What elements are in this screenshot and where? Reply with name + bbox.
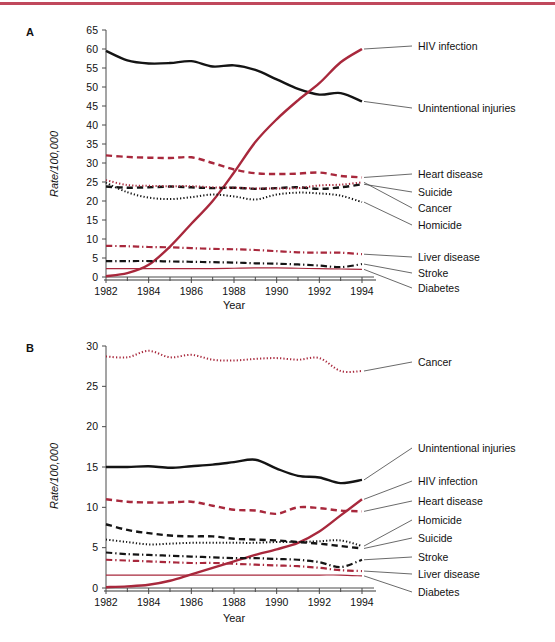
- legend-leader-suicide: [364, 184, 412, 192]
- series-line-unintentional-injuries: [106, 51, 362, 102]
- x-tick-label: 1982: [94, 596, 118, 608]
- x-tick-label: 1984: [137, 596, 161, 608]
- x-tick-label: 1984: [137, 285, 161, 297]
- x-axis-title: Year: [223, 299, 246, 311]
- x-tick-label: 1994: [350, 285, 374, 297]
- legend-leader-liver-disease: [364, 254, 412, 257]
- legend-leader-unintentional-injuries: [364, 448, 412, 480]
- legend-leader-heart-disease: [364, 174, 412, 177]
- legend-label-suicide: Suicide: [418, 532, 453, 544]
- legend-label-heart-disease: Heart disease: [418, 495, 483, 507]
- y-tick-label: 5: [92, 541, 98, 553]
- y-tick-label: 15: [86, 461, 98, 473]
- series-line-hiv-infection: [106, 49, 362, 276]
- x-tick-label: 1986: [180, 285, 204, 297]
- legend-leader-suicide: [364, 538, 412, 548]
- y-tick-label: 65: [86, 24, 98, 36]
- legend-label-diabetes: Diabetes: [418, 282, 459, 294]
- legend-leader-cancer: [364, 362, 412, 371]
- x-axis-title: Year: [223, 612, 246, 624]
- y-axis-title: Rate/100,000: [48, 442, 60, 509]
- x-tick-label: 1982: [94, 285, 118, 297]
- legend-leader-hiv-infection: [364, 46, 412, 49]
- panel-a: A051015202530354045505560651982198419861…: [0, 14, 555, 320]
- legend-label-cancer: Cancer: [418, 356, 452, 368]
- y-tick-label: 5: [92, 252, 98, 264]
- top-rule: [0, 2, 555, 5]
- legend-leader-stroke: [364, 264, 412, 273]
- panel-a-plot: A051015202530354045505560651982198419861…: [0, 14, 555, 320]
- y-tick-label: 45: [86, 100, 98, 112]
- x-tick-label: 1988: [222, 285, 246, 297]
- x-tick-label: 1992: [308, 596, 332, 608]
- y-tick-label: 20: [86, 195, 98, 207]
- legend-label-unintentional-injuries: Unintentional injuries: [418, 442, 515, 454]
- y-tick-label: 50: [86, 81, 98, 93]
- y-tick-label: 15: [86, 214, 98, 226]
- legend-label-homicide: Homicide: [418, 219, 462, 231]
- y-tick-label: 40: [86, 119, 98, 131]
- series-line-diabetes: [106, 575, 362, 576]
- y-tick-label: 20: [86, 420, 98, 432]
- y-tick-label: 60: [86, 43, 98, 55]
- legend-leader-unintentional-injuries: [364, 101, 412, 108]
- series-line-suicide: [106, 184, 362, 189]
- legend-label-suicide: Suicide: [418, 186, 453, 198]
- legend-label-cancer: Cancer: [418, 202, 452, 214]
- series-line-homicide: [106, 183, 362, 202]
- legend-leader-homicide: [364, 520, 412, 546]
- legend-leader-cancer: [364, 182, 412, 208]
- legend-leader-stroke: [364, 557, 412, 560]
- y-tick-label: 55: [86, 62, 98, 74]
- legend-label-heart-disease: Heart disease: [418, 168, 483, 180]
- legend-label-diabetes: Diabetes: [418, 586, 459, 598]
- panel-b: B051015202530198219841986198819901992199…: [0, 326, 555, 636]
- legend-leader-homicide: [364, 202, 412, 225]
- series-line-cancer: [106, 351, 362, 372]
- series-line-liver-disease: [106, 246, 362, 254]
- legend-label-stroke: Stroke: [418, 267, 449, 279]
- y-tick-label: 25: [86, 176, 98, 188]
- x-tick-label: 1990: [265, 285, 289, 297]
- legend-label-homicide: Homicide: [418, 514, 462, 526]
- legend-label-stroke: Stroke: [418, 551, 449, 563]
- y-tick-label: 35: [86, 138, 98, 150]
- x-tick-label: 1988: [222, 596, 246, 608]
- legend-label-liver-disease: Liver disease: [418, 568, 480, 580]
- legend-label-hiv-infection: HIV infection: [418, 475, 478, 487]
- y-tick-label: 10: [86, 233, 98, 245]
- x-tick-label: 1992: [308, 285, 332, 297]
- legend-leader-hiv-infection: [364, 481, 412, 499]
- y-tick-label: 25: [86, 380, 98, 392]
- panel-b-plot: B051015202530198219841986198819901992199…: [0, 326, 555, 636]
- legend-label-liver-disease: Liver disease: [418, 251, 480, 263]
- panel-letter: A: [26, 26, 34, 38]
- y-tick-label: 0: [92, 582, 98, 594]
- series-line-heart-disease: [106, 499, 362, 514]
- legend-leader-heart-disease: [364, 501, 412, 511]
- y-tick-label: 0: [92, 271, 98, 283]
- series-line-unintentional-injuries: [106, 459, 362, 483]
- x-tick-label: 1990: [265, 596, 289, 608]
- x-tick-label: 1986: [180, 596, 204, 608]
- legend-label-hiv-infection: HIV infection: [418, 40, 478, 52]
- legend-label-unintentional-injuries: Unintentional injuries: [418, 102, 515, 114]
- legend-leader-diabetes: [364, 576, 412, 592]
- y-tick-label: 30: [86, 340, 98, 352]
- y-tick-label: 10: [86, 501, 98, 513]
- series-line-stroke: [106, 553, 362, 568]
- y-tick-label: 30: [86, 157, 98, 169]
- legend-leader-liver-disease: [364, 571, 412, 574]
- panel-letter: B: [26, 342, 34, 354]
- x-tick-label: 1994: [350, 596, 374, 608]
- y-axis-title: Rate/100,000: [48, 130, 60, 197]
